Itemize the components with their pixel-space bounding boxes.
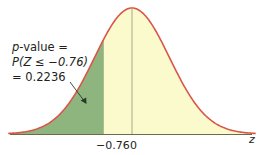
annotation-line-3: = 0.2236 — [12, 71, 66, 84]
annotation-line-1: p-value = — [12, 41, 68, 54]
value-equals-text: -value = — [19, 40, 68, 54]
tick-label-zero: 0 — [130, 139, 137, 152]
annotation-line-2: P(Z ≤ −0.76) — [12, 56, 88, 69]
x-axis-label: z — [249, 133, 255, 146]
tick-label-cutoff: −0.76 — [96, 139, 130, 152]
